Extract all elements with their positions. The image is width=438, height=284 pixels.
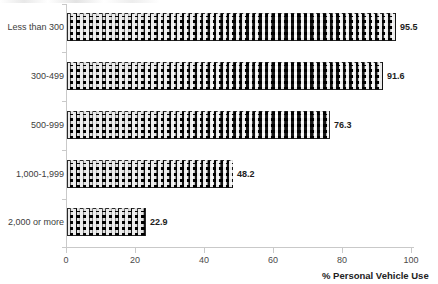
value-label-4: 22.9 — [150, 217, 168, 227]
bar-1[interactable] — [67, 62, 383, 90]
bar-chart: Less than 300 300-499 500-999 1,000-1,99… — [0, 0, 438, 284]
x-axis-tick-label-3: 60 — [268, 255, 278, 265]
cropped-title-remnant — [0, 0, 200, 3]
value-label-2: 76.3 — [334, 120, 352, 130]
y-axis-tick — [62, 52, 66, 53]
bar-4[interactable] — [67, 208, 146, 236]
category-label-3: 1,000-1,999 — [16, 169, 64, 179]
x-axis-tick — [411, 248, 412, 253]
category-label-0: Less than 300 — [7, 22, 64, 32]
bar-pattern-overlay — [67, 208, 146, 236]
bar-0[interactable] — [67, 13, 396, 41]
x-axis-tick — [273, 248, 274, 253]
value-label-3: 48.2 — [237, 169, 255, 179]
y-axis-tick — [62, 150, 66, 151]
category-label-2: 500-999 — [31, 120, 64, 130]
bar-pattern-overlay — [67, 160, 233, 188]
x-axis-tick — [66, 248, 67, 253]
bar-pattern-overlay — [67, 111, 330, 139]
category-label-4: 2,000 or more — [8, 217, 64, 227]
x-axis-line — [66, 247, 414, 248]
y-axis-tick — [62, 101, 66, 102]
x-axis-tick — [135, 248, 136, 253]
y-axis-tick — [62, 4, 66, 5]
x-axis-tick — [342, 248, 343, 253]
x-axis-tick — [204, 248, 205, 253]
value-label-1: 91.6 — [387, 71, 405, 81]
category-label-1: 300-499 — [31, 71, 64, 81]
value-label-0: 95.5 — [400, 22, 418, 32]
bar-3[interactable] — [67, 160, 233, 188]
x-axis-tick-label-2: 40 — [199, 255, 209, 265]
x-axis-tick-label-1: 20 — [130, 255, 140, 265]
x-axis-tick-label-5: 100 — [403, 255, 418, 265]
x-axis-tick-label-0: 0 — [63, 255, 68, 265]
bar-2[interactable] — [67, 111, 330, 139]
y-axis-tick — [62, 199, 66, 200]
x-axis-tick-label-4: 80 — [337, 255, 347, 265]
x-axis-title: % Personal Vehicle Use — [322, 270, 429, 281]
bar-pattern-overlay — [67, 62, 383, 90]
bar-pattern-overlay — [67, 13, 396, 41]
